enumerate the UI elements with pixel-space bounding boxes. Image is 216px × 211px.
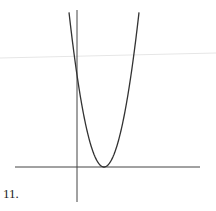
scan-artifact-line: [0, 53, 216, 58]
parabola-graph: [0, 0, 216, 211]
parabola-curve: [69, 12, 139, 167]
graph-figure: 11.: [0, 0, 216, 211]
problem-number: 11.: [3, 186, 19, 202]
